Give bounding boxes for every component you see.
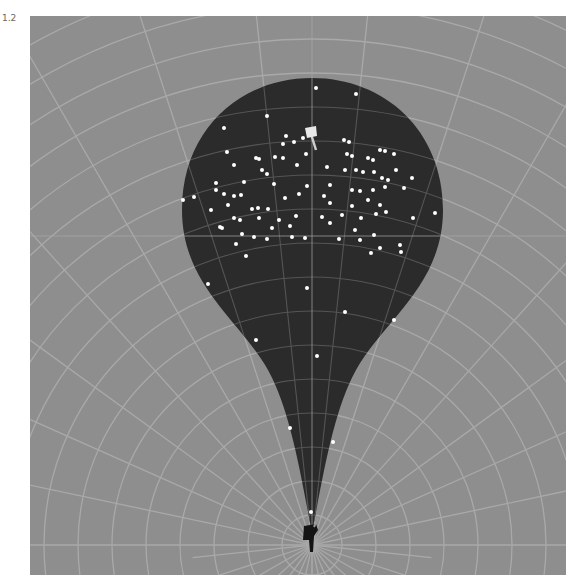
shot-dot [288,224,292,228]
shot-dot [192,195,196,199]
shot-dot [225,150,229,154]
shot-dot [301,136,305,140]
shot-dot [297,192,301,196]
shot-dot [281,156,285,160]
shot-dot [260,168,264,172]
shot-dot [433,211,437,215]
shot-dot [354,168,358,172]
shot-dot [290,235,294,239]
shot-dot [222,192,226,196]
shot-dot [273,155,277,159]
shot-dot [214,181,218,185]
shot-dot [392,318,396,322]
shot-dot [232,194,236,198]
shot-dot [181,198,185,202]
shot-dot [343,310,347,314]
shot-dot [369,251,373,255]
shot-dot [265,237,269,241]
shot-dot [378,203,382,207]
shot-dot [378,246,382,250]
shot-dot [294,214,298,218]
shot-dot [358,238,362,242]
shot-dot [378,148,382,152]
shot-dot [350,188,354,192]
shot-dot [347,140,351,144]
shot-dot [239,193,243,197]
shot-dot [232,216,236,220]
version-label: 1.2 [2,13,16,23]
shot-dot [372,170,376,174]
shot-dot [380,176,384,180]
shot-dot [284,134,288,138]
shot-dot [309,510,313,514]
shot-dot [353,228,357,232]
shot-dot [345,152,349,156]
shot-dot [350,204,354,208]
shot-dot [361,170,365,174]
shot-dot [220,226,224,230]
shot-dot [354,92,358,96]
shot-dot [209,208,213,212]
shot-dot [292,140,296,144]
shot-dot [242,180,246,184]
shot-dot [372,233,376,237]
shot-dot [394,168,398,172]
shot-dot [350,154,354,158]
shot-dot [384,210,388,214]
shot-dot [254,338,258,342]
shot-dot [257,157,261,161]
shot-dot [314,86,318,90]
shot-dot [250,207,254,211]
shot-dot [288,426,292,430]
shot-dot [328,201,332,205]
dispersion-plot [30,16,566,575]
shot-dot [226,203,230,207]
shot-dot [366,198,370,202]
shot-dot [206,282,210,286]
shot-dot [266,207,270,211]
shot-dot [232,163,236,167]
shot-dot [303,236,307,240]
shot-dot [398,243,402,247]
shot-dot [234,242,238,246]
shot-dot [366,156,370,160]
shot-dot [304,152,308,156]
shot-dot [328,221,332,225]
shot-dot [265,114,269,118]
shot-dot [240,232,244,236]
dispersion-chart [30,16,566,575]
shot-dot [281,142,285,146]
shot-dot [399,250,403,254]
shot-dot [322,194,326,198]
shot-dot [383,149,387,153]
shot-dot [265,172,269,176]
shot-dot [340,213,344,217]
shot-dot [305,184,309,188]
shot-dot [315,354,319,358]
shot-dot [256,206,260,210]
shot-dot [386,178,390,182]
shot-dot [277,218,281,222]
shot-dot [295,163,299,167]
shot-dot [371,158,375,162]
shot-dot [325,165,329,169]
shot-dot [320,215,324,219]
shot-dot [371,188,375,192]
shot-dot [411,216,415,220]
shot-dot [374,212,378,216]
shot-dot [358,189,362,193]
shot-dot [359,216,363,220]
shot-dot [270,226,274,230]
shot-dot [244,254,248,258]
shot-dot [328,183,332,187]
shot-dot [383,185,387,189]
shot-dot [402,186,406,190]
shot-dot [283,196,287,200]
shot-dot [392,152,396,156]
shot-dot [305,286,309,290]
shot-dot [343,168,347,172]
shot-dot [331,440,335,444]
shot-dot [238,218,242,222]
shot-dot [252,235,256,239]
shot-dot [214,188,218,192]
